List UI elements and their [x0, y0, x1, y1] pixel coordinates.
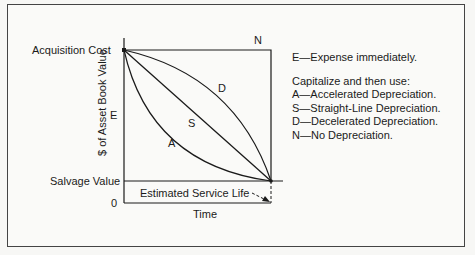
- legend-expense: E—Expense immediately.: [292, 51, 441, 65]
- legend-item-n: N—No Depreciation.: [292, 129, 441, 143]
- y-axis-label: $ of Asset Book Value: [96, 49, 108, 156]
- label-a: A: [168, 137, 175, 150]
- legend-item-s: S—Straight-Line Depreciation.: [292, 102, 441, 116]
- legend-item-a: A—Accelerated Depreciation.: [292, 88, 441, 102]
- x-axis-label: Time: [193, 208, 217, 221]
- arrow-head-icon: [262, 196, 270, 202]
- legend: E—Expense immediately. Capitalize and th…: [292, 51, 441, 142]
- salvage-value-label: Salvage Value: [50, 175, 120, 188]
- legend-item-d: D—Decelerated Depreciation.: [292, 115, 441, 129]
- label-e: E: [110, 109, 117, 122]
- zero-label: 0: [111, 197, 117, 210]
- legend-heading: Capitalize and then use:: [292, 75, 441, 89]
- service-life-label: Estimated Service Life: [140, 187, 249, 200]
- end-point: [269, 179, 273, 183]
- label-s: S: [188, 117, 195, 130]
- curve-s: [124, 50, 271, 181]
- label-n: N: [254, 34, 262, 47]
- acquisition-point: [122, 48, 126, 52]
- label-d: D: [218, 82, 226, 95]
